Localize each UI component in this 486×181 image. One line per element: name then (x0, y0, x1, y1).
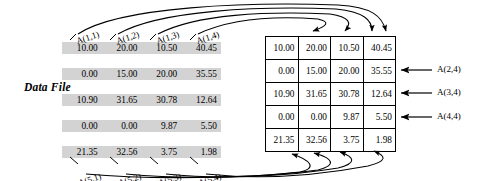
bottom-label-ticks (70, 157, 198, 164)
connector-a1-1 (78, 4, 386, 34)
tick-a5-2 (110, 157, 118, 164)
array-mapping-diagram: Data File 10.00 20.00 10.50 40.45 0.00 1… (0, 0, 486, 181)
top-connectors (78, 4, 386, 34)
label-a2-4: A(2,4) (437, 64, 461, 74)
label-a4-4: A(4,4) (437, 111, 461, 121)
label-a3-4: A(3,4) (437, 87, 461, 97)
right-connectors (401, 70, 432, 117)
tick-a5-3 (150, 157, 158, 164)
tick-a5-1 (70, 157, 78, 164)
tick-a5-4 (190, 157, 198, 164)
connector-layer (0, 0, 486, 181)
connector-a1-3 (158, 13, 349, 34)
